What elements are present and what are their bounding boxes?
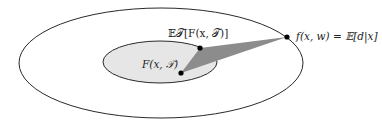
- label-expected-F: 𝔼𝒯[F(x, 𝒯)]: [168, 27, 228, 39]
- point-F: [178, 70, 183, 75]
- point-expected-F: [197, 45, 202, 50]
- label-F: F(x, 𝒯): [141, 58, 178, 70]
- bias-variance-diagram: 𝔼𝒯[F(x, 𝒯)] F(x, 𝒯) f(x, w) = 𝔼[d|x]: [0, 0, 382, 120]
- point-f-regression: [284, 34, 289, 39]
- label-f-regression: f(x, w) = 𝔼[d|x]: [295, 30, 378, 44]
